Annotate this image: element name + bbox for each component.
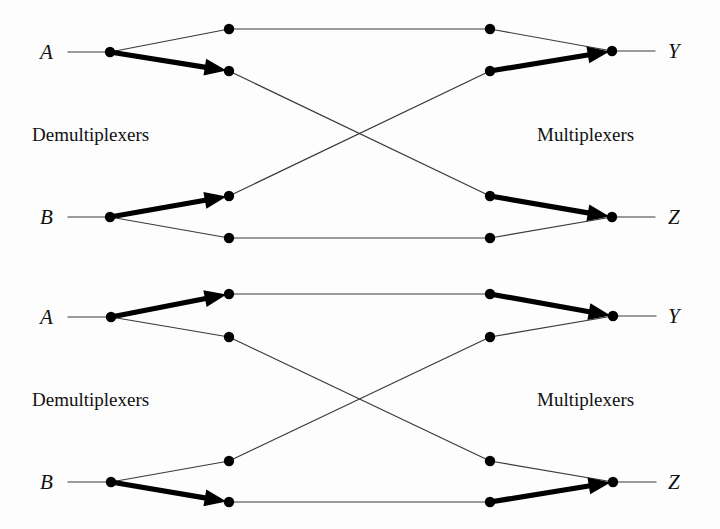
node-bottom-mux-y-in-top <box>485 289 495 299</box>
arrowhead <box>203 290 226 307</box>
node-top-demux-b <box>105 212 115 222</box>
node-top-mux-y-in-bottom <box>485 66 495 76</box>
edge-bottom-ztop-to-z <box>490 461 613 482</box>
node-bottom-mux-y-in-bottom <box>485 332 495 342</box>
node-top-demux-a-out-top <box>224 24 234 34</box>
node-top-mux-z <box>607 212 617 222</box>
node-top-mux-z-in-bottom <box>485 233 495 243</box>
node-bottom-mux-y <box>608 311 618 321</box>
edge-line <box>490 217 612 238</box>
edge-shaft <box>490 485 595 502</box>
edge-top-ytop-to-y <box>490 29 612 51</box>
edge-line <box>111 317 229 337</box>
input-label-a-top: A <box>40 42 53 63</box>
edge-shaft <box>490 54 594 71</box>
input-label-b-top: B <box>40 207 53 228</box>
stage-label-multiplexers-bottom: Multiplexers <box>537 390 634 409</box>
stage-label-demultiplexers-top: Demultiplexers <box>32 125 149 144</box>
edges-layer <box>68 29 656 506</box>
node-bottom-mux-z-in-top <box>485 456 495 466</box>
node-top-mux-y-in-top <box>485 24 495 34</box>
edge-bottom-b-to-top <box>111 461 229 482</box>
edge-shaft <box>111 482 211 499</box>
stage-label-demultiplexers-bottom: Demultiplexers <box>32 390 149 409</box>
edge-bottom-b-to-bottom <box>111 482 227 506</box>
node-top-demux-b-out-bottom <box>224 233 234 243</box>
edge-line <box>490 461 613 482</box>
diagram-canvas: A B Y Z Demultiplexers Multiplexers A B … <box>0 0 720 529</box>
output-label-z-bottom: Z <box>668 472 680 493</box>
node-bottom-demux-b-out-bottom <box>224 497 234 507</box>
edge-top-a-to-bottom <box>110 52 227 76</box>
edge-shaft <box>110 52 211 68</box>
output-label-y-bottom: Y <box>668 306 680 327</box>
edge-bottom-zbot-to-z <box>490 478 611 502</box>
stage-label-multiplexers-top: Multiplexers <box>537 125 634 144</box>
node-bottom-mux-z-in-bottom <box>485 497 495 507</box>
edge-top-ztop-to-z <box>490 196 610 221</box>
nodes-layer <box>105 24 618 507</box>
arrowhead <box>203 192 226 209</box>
edge-top-ybot-to-y <box>490 47 610 71</box>
arrowhead <box>203 59 226 76</box>
node-bottom-demux-a-out-top <box>224 289 234 299</box>
arrowhead <box>203 490 226 507</box>
edge-line <box>111 461 229 482</box>
edge-shaft <box>111 298 211 317</box>
edge-line <box>110 217 229 238</box>
edge-top-zbot-to-z <box>490 217 612 238</box>
node-top-demux-a <box>105 47 115 57</box>
edge-shaft <box>110 199 211 217</box>
edge-bottom-ytop-to-y <box>490 294 611 320</box>
node-bottom-mux-z <box>608 477 618 487</box>
edge-bottom-a-to-bottom <box>111 317 229 337</box>
output-label-y-top: Y <box>668 41 680 62</box>
node-top-demux-a-out-bottom <box>224 66 234 76</box>
node-top-demux-b-out-top <box>224 191 234 201</box>
node-bottom-demux-b-out-top <box>224 456 234 466</box>
input-label-a-bottom: A <box>40 307 53 328</box>
node-top-mux-z-in-top <box>485 191 495 201</box>
edge-top-a-to-top <box>110 29 229 52</box>
node-bottom-demux-a-out-bottom <box>224 332 234 342</box>
arrowhead <box>586 47 609 64</box>
edge-top-b-to-top <box>110 192 227 217</box>
edge-bottom-a-to-top <box>111 290 227 317</box>
edge-line <box>110 29 229 52</box>
network-svg <box>0 0 720 529</box>
arrowhead <box>587 478 610 495</box>
node-top-mux-y <box>607 46 617 56</box>
edge-top-b-to-bottom <box>110 217 229 238</box>
input-label-b-bottom: B <box>40 472 53 493</box>
output-label-z-top: Z <box>668 207 680 228</box>
arrowhead <box>586 204 609 221</box>
edge-line <box>490 316 613 337</box>
edge-shaft <box>490 196 594 214</box>
node-bottom-demux-b <box>106 477 116 487</box>
node-bottom-demux-a <box>106 312 116 322</box>
edge-bottom-ybot-to-y <box>490 316 613 337</box>
edge-shaft <box>490 294 595 313</box>
edge-line <box>490 29 612 51</box>
